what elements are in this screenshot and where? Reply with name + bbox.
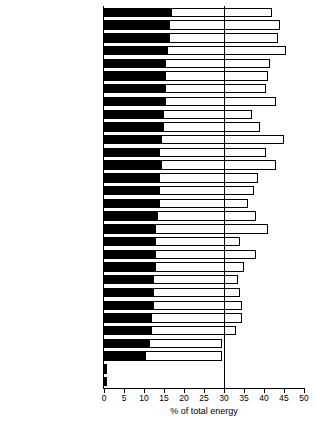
stacked-bar [104,313,242,322]
bar-segment-black [104,288,154,297]
bar-row [104,199,304,208]
bar-segment-white [152,313,242,322]
bar-segment-white [172,8,272,17]
bar-segment-white [162,160,276,169]
bar-row [104,262,304,271]
stacked-bar [104,59,270,68]
category-labels: ValenciennesDüsseldorf IIMunichViennaDüs… [0,0,100,431]
bar-segment-black [104,84,166,93]
bar-row [104,339,304,348]
bar-row [104,250,304,259]
bar-row [104,84,304,93]
stacked-bar [104,173,258,182]
bar-segment-black [104,173,160,182]
bar-segment-white [170,20,280,29]
bar-segment-white [164,110,252,119]
bar-row [104,237,304,246]
bar-row [104,71,304,80]
bar-segment-white [156,224,268,233]
bar-row [104,135,304,144]
bar-segment-white [156,250,256,259]
reference-line [224,6,225,388]
bar-row [104,313,304,322]
bar-row [104,8,304,17]
bar-segment-black [104,237,156,246]
chart-figure: ValenciennesDüsseldorf IIMunichViennaDüs… [0,0,315,431]
bar-segment-black [104,8,172,17]
bar-segment-black [104,33,170,42]
stacked-bar [104,262,244,271]
bar-segment-black [104,262,156,271]
bar-segment-black [104,250,156,259]
bar-row [104,122,304,131]
bar-row [104,351,304,360]
stacked-bar [104,160,276,169]
bar-segment-black [104,351,146,360]
stacked-bar [104,97,276,106]
bar-segment-white [160,186,254,195]
bar-row [104,160,304,169]
bar-row [104,148,304,157]
bar-segment-white [160,148,266,157]
bar-row [104,326,304,335]
bar-segment-white [154,288,240,297]
bar-row [104,377,304,386]
bar-segment-white [160,199,248,208]
bar-row [104,301,304,310]
bar-row [104,186,304,195]
bar-segment-white [166,59,270,68]
stacked-bar [104,20,280,29]
bar-segment-black [104,20,170,29]
bar-segment-black [104,110,164,119]
bar-segment-black [104,97,166,106]
stacked-bar [104,351,222,360]
stacked-bar [104,71,268,80]
bar-segment-white [156,237,240,246]
bar-row [104,20,304,29]
stacked-bar [104,339,222,348]
bar-row [104,59,304,68]
x-tick-label: 50 [291,393,315,403]
stacked-bar [104,377,107,386]
bar-row [104,211,304,220]
bar-segment-black [104,46,168,55]
bar-segment-black [104,122,164,131]
bar-row [104,110,304,119]
bar-segment-black [104,275,154,284]
bar-row [104,97,304,106]
stacked-bar [104,211,256,220]
y-axis-line [103,6,104,389]
stacked-bar [104,186,254,195]
bar-segment-black [104,211,158,220]
bar-segment-white [158,211,256,220]
bar-segment-black [104,339,150,348]
bar-row [104,224,304,233]
bar-segment-white [106,364,107,373]
bar-segment-white [164,122,260,131]
bar-segment-black [104,160,162,169]
stacked-bar [104,122,260,131]
stacked-bar [104,8,272,17]
bar-row [104,364,304,373]
stacked-bar [104,224,268,233]
x-axis-label: % of total energy [104,406,304,416]
bar-segment-white [168,46,286,55]
stacked-bar [104,84,266,93]
stacked-bar [104,33,278,42]
bar-segment-black [104,186,160,195]
bar-segment-white [156,262,244,271]
stacked-bar [104,148,266,157]
stacked-bar [104,46,286,55]
bar-segment-black [104,148,160,157]
stacked-bar [104,301,242,310]
stacked-bar [104,110,252,119]
bar-segment-black [104,199,160,208]
bar-segment-black [104,326,152,335]
bar-segment-white [150,339,222,348]
plot-area [104,6,304,388]
bar-row [104,275,304,284]
bar-row [104,173,304,182]
bar-row [104,288,304,297]
bar-segment-white [106,377,107,386]
stacked-bar [104,199,248,208]
